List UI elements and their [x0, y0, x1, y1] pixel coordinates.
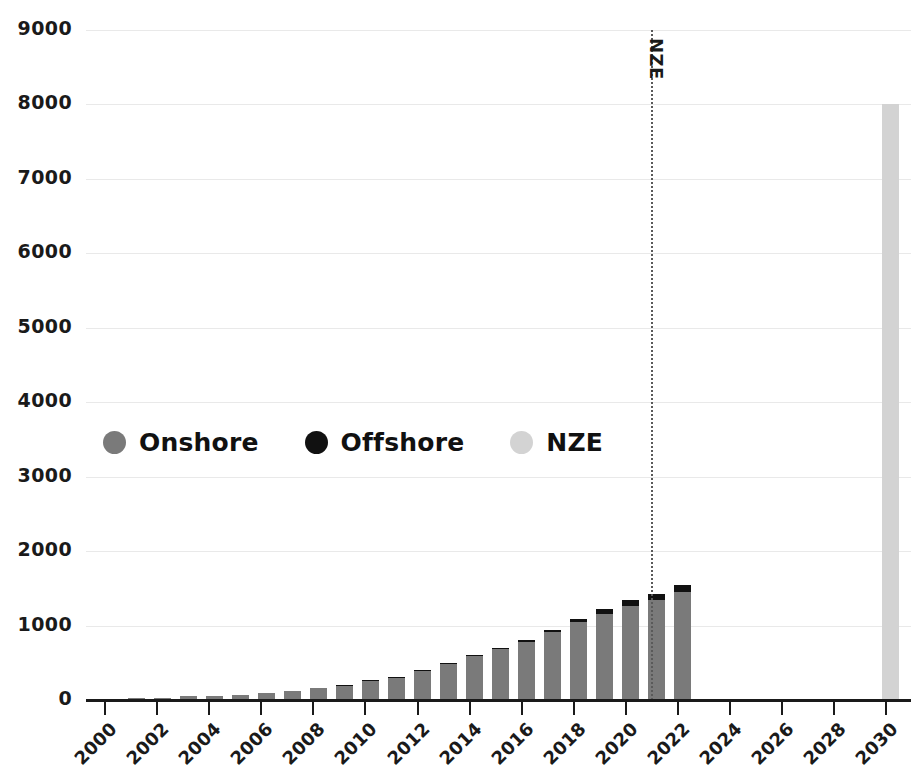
bar-2030 [882, 104, 899, 700]
y-axis-tick-label: 9000 [0, 17, 72, 39]
x-axis-tick [104, 702, 106, 715]
bar-segment-offshore [622, 600, 639, 606]
x-axis-tick-label: 2008 [275, 718, 329, 772]
y-axis-tick-label: 1000 [0, 613, 72, 635]
bar-segment-offshore [518, 640, 535, 642]
bar-segment-onshore [492, 649, 509, 700]
y-axis-tick-label: 7000 [0, 166, 72, 188]
x-axis-tick-label: 2030 [847, 718, 901, 772]
bar-segment-onshore [388, 677, 405, 700]
bar-2018 [570, 618, 587, 700]
x-axis-tick-label: 2012 [379, 718, 433, 772]
x-axis-tick [781, 702, 783, 715]
x-axis-tick [521, 702, 523, 715]
nze-divider-line [651, 30, 653, 700]
legend-label: NZE [546, 428, 603, 457]
bar-segment-onshore [414, 670, 431, 700]
x-axis-tick-label: 2004 [171, 718, 225, 772]
nze-divider-label: NZE [646, 38, 667, 80]
x-axis-tick-label: 2016 [483, 718, 537, 772]
bar-2019 [596, 609, 613, 700]
bar-segment-offshore [596, 609, 613, 614]
x-axis-tick-label: 2020 [587, 718, 641, 772]
x-axis-tick-label: 2006 [223, 718, 277, 772]
bar-segment-offshore [492, 648, 509, 649]
x-axis-tick [260, 702, 262, 715]
bar-segment-onshore [362, 681, 379, 700]
x-axis-tick [469, 702, 471, 715]
x-axis-tick [417, 702, 419, 715]
x-axis-tick-label: 2002 [119, 718, 173, 772]
x-axis-tick-label: 2026 [743, 718, 797, 772]
y-axis-tick-label: 6000 [0, 240, 72, 262]
x-axis-tick [677, 702, 679, 715]
x-axis-tick [729, 702, 731, 715]
x-axis-tick-label: 2000 [67, 718, 121, 772]
bar-segment-nze [882, 104, 899, 700]
bar-2014 [466, 655, 483, 700]
x-axis-tick [312, 702, 314, 715]
x-axis-tick [208, 702, 210, 715]
y-axis-tick-label: 2000 [0, 538, 72, 560]
bar-2011 [388, 677, 405, 700]
x-axis-tick [573, 702, 575, 715]
bar-2009 [336, 685, 353, 700]
bar-segment-onshore [518, 642, 535, 700]
bar-segment-offshore [570, 619, 587, 622]
bar-segment-offshore [544, 630, 561, 633]
bar-segment-onshore [674, 592, 691, 700]
legend-item-nze[interactable]: NZE [510, 428, 603, 457]
x-axis-tick [364, 702, 366, 715]
bar-2016 [518, 640, 535, 700]
legend-item-offshore[interactable]: Offshore [305, 428, 465, 457]
bar-segment-onshore [622, 606, 639, 700]
wind-capacity-stacked-bar-chart: 0100020003000400050006000700080009000 NZ… [0, 0, 917, 784]
bar-2022 [674, 585, 691, 700]
legend-circle-swatch-icon [510, 431, 533, 454]
y-axis-tick-label: 0 [0, 687, 72, 709]
bar-2020 [622, 600, 639, 700]
x-axis-tick-label: 2018 [535, 718, 589, 772]
x-axis-tick-label: 2028 [795, 718, 849, 772]
x-axis-tick [885, 702, 887, 715]
bar-2013 [440, 663, 457, 700]
legend-item-onshore[interactable]: Onshore [103, 428, 259, 457]
bar-segment-onshore [544, 632, 561, 700]
bar-2010 [362, 680, 379, 700]
bars-layer [86, 30, 911, 700]
y-axis-tick-label: 4000 [0, 389, 72, 411]
x-axis-tick [625, 702, 627, 715]
bar-2017 [544, 630, 561, 700]
x-axis-tick [156, 702, 158, 715]
bar-segment-onshore [440, 664, 457, 700]
x-axis-tick-label: 2010 [327, 718, 381, 772]
bar-segment-onshore [596, 614, 613, 700]
bar-2012 [414, 670, 431, 700]
bar-segment-offshore [414, 670, 431, 671]
y-axis-tick-label: 3000 [0, 464, 72, 486]
chart-legend: OnshoreOffshoreNZE [103, 428, 603, 457]
x-axis-tick-label: 2024 [691, 718, 745, 772]
bar-2015 [492, 648, 509, 700]
bar-segment-onshore [466, 656, 483, 700]
legend-label: Offshore [341, 428, 465, 457]
bar-segment-offshore [466, 655, 483, 656]
x-axis-tick-label: 2022 [639, 718, 693, 772]
y-axis-tick-label: 8000 [0, 91, 72, 113]
bar-segment-onshore [570, 622, 587, 700]
legend-circle-swatch-icon [305, 431, 328, 454]
legend-label: Onshore [139, 428, 259, 457]
x-axis-tick [833, 702, 835, 715]
legend-circle-swatch-icon [103, 431, 126, 454]
y-axis-tick-label: 5000 [0, 315, 72, 337]
bar-segment-offshore [674, 585, 691, 592]
bar-segment-onshore [336, 685, 353, 700]
x-axis-tick-label: 2014 [431, 718, 485, 772]
bar-segment-offshore [440, 663, 457, 664]
